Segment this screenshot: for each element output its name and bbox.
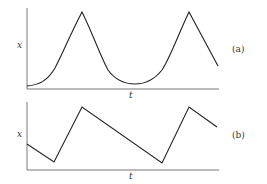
panel-b-curve: [27, 107, 217, 163]
panel-b-y-label: x: [17, 129, 22, 139]
panel-b-label: (b): [232, 130, 245, 140]
panel-a-curve: [27, 12, 218, 86]
panel-b-x-label: t: [129, 171, 133, 181]
panel-b: x t (b): [17, 102, 245, 181]
panel-a-label: (a): [232, 44, 244, 54]
panel-a: x t (a): [17, 8, 244, 100]
figure: x t (a) x t (b): [0, 0, 267, 184]
panel-a-y-label: x: [17, 40, 22, 50]
panel-a-x-label: t: [129, 90, 133, 100]
